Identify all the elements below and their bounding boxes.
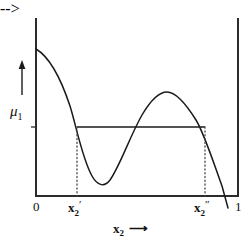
y-axis-label-subscript: 1 [18,111,23,122]
x-tick-label-0: 0 [33,200,40,213]
figure-container: μ1 0 x2′ x2″ 1 --> x2⟶ [0,0,252,248]
x-tick-label-x2-doubleprime: x2″ [194,199,210,218]
y-axis-label-mu: μ [10,103,18,119]
x-tick-label-1: 1 [235,200,242,213]
x-axis-title-subscript: 2 [120,228,125,238]
x-tick-label-x2-prime: x2′ [68,199,82,218]
up-arrow-icon [19,60,26,95]
y-axis-label: μ1 [10,104,23,122]
x-axis-title: x2⟶ [113,222,147,238]
mu1-curve [36,49,228,208]
right-arrow-icon: ⟶ [129,221,147,236]
